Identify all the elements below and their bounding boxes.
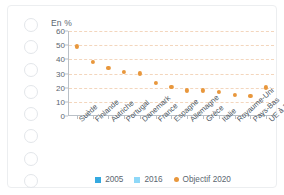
y-axis-tick-label: 20 (56, 83, 65, 92)
legend-dot-icon (174, 177, 179, 182)
legend-item[interactable]: Objectif 2020 (174, 175, 231, 184)
y-axis-tick-mark (65, 116, 68, 117)
target-marker-dot (106, 66, 110, 70)
chart-legend: 20052016Objectif 2020 (46, 175, 280, 184)
target-marker-dot (138, 71, 142, 75)
y-axis-tick-mark (65, 101, 68, 102)
spiral-binding-hole (24, 107, 38, 121)
legend-item[interactable]: 2016 (134, 175, 162, 184)
bar-slot (227, 31, 243, 116)
y-axis-tick-label: 40 (56, 55, 65, 64)
spiral-binding-hole (24, 129, 38, 143)
y-axis-tick-label: 60 (56, 27, 65, 36)
chart-container: En % 0102030405060 SuèdeFinlandeAutriche… (46, 18, 280, 186)
y-axis-tick-mark (65, 73, 68, 74)
target-marker-dot (232, 93, 236, 97)
legend-label: Objectif 2020 (183, 175, 231, 184)
target-marker-dot (91, 60, 95, 64)
legend-square-icon (134, 177, 140, 183)
target-marker-dot (217, 90, 221, 94)
spiral-binding-hole (24, 18, 38, 32)
spiral-binding-hole (24, 152, 38, 166)
y-axis-tick-label: 50 (56, 41, 65, 50)
y-axis-tick-mark (65, 31, 68, 32)
target-marker-dot (75, 45, 79, 49)
y-axis-tick-mark (65, 87, 68, 88)
spiral-binding (20, 18, 42, 188)
screenshot-root: En % 0102030405060 SuèdeFinlandeAutriche… (0, 0, 284, 195)
y-axis-tick-label: 30 (56, 69, 65, 78)
target-marker-dot (201, 88, 205, 92)
target-marker-dot (154, 81, 158, 85)
spiral-binding-hole (24, 40, 38, 54)
spiral-binding-hole (24, 63, 38, 77)
spiral-binding-hole (24, 174, 38, 188)
target-marker-dot (169, 85, 173, 89)
y-axis-tick-mark (65, 59, 68, 60)
target-marker-dot (122, 70, 126, 74)
spiral-binding-hole (24, 85, 38, 99)
y-axis-tick-label: 10 (56, 97, 65, 106)
legend-label: 2016 (144, 175, 162, 184)
notebook-card: En % 0102030405060 SuèdeFinlandeAutriche… (7, 5, 277, 188)
legend-item[interactable]: 2005 (95, 175, 123, 184)
legend-square-icon (95, 177, 101, 183)
x-axis-labels: SuèdeFinlandeAutrichePortugalDanemarkFra… (69, 117, 275, 167)
target-marker-dot (185, 88, 189, 92)
legend-label: 2005 (105, 175, 123, 184)
bar-slot (69, 31, 85, 116)
y-axis-tick-mark (65, 45, 68, 46)
target-marker-dot (248, 94, 252, 98)
